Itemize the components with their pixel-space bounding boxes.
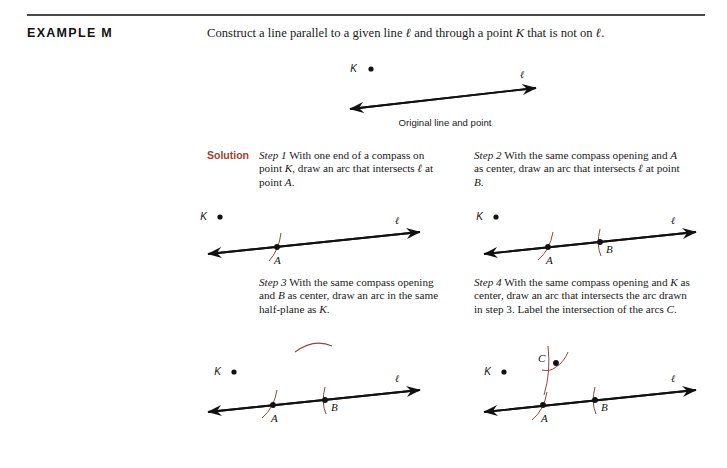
label-a: A bbox=[545, 254, 553, 266]
point-b-dot bbox=[592, 397, 598, 403]
problem-text-3: that is not on bbox=[524, 26, 596, 40]
solution-label: Solution bbox=[207, 149, 249, 161]
step-2-body-1: With the same compass opening and bbox=[502, 149, 671, 161]
step-4-body-3: . bbox=[674, 303, 677, 315]
point-k-dot bbox=[217, 214, 222, 219]
step-2-lead: Step 2 bbox=[474, 149, 502, 161]
label-k: K bbox=[484, 366, 492, 377]
problem-text-2: and through a point bbox=[411, 26, 516, 40]
label-ell: ℓ bbox=[395, 215, 399, 226]
step-3-var-1: B bbox=[278, 289, 285, 301]
textbook-page: EXAMPLE M Construct a line parallel to a… bbox=[0, 0, 727, 468]
step-1-var-2: A bbox=[285, 176, 292, 188]
header-divider bbox=[27, 14, 705, 16]
step-1-body-4: . bbox=[292, 176, 295, 188]
step-3-var-2: K bbox=[319, 303, 326, 315]
figure-step-4-svg: K C A B ℓ bbox=[472, 332, 712, 428]
problem-text-4: . bbox=[601, 26, 604, 40]
label-a: A bbox=[540, 412, 548, 424]
point-k-dot bbox=[231, 369, 236, 374]
figure-step-3: K A B ℓ bbox=[196, 332, 436, 428]
figure-step-2-svg: K A B ℓ bbox=[472, 206, 712, 270]
point-k-dot bbox=[493, 214, 498, 219]
line-ell-left bbox=[208, 390, 420, 412]
label-k: K bbox=[350, 63, 358, 74]
label-ell: ℓ bbox=[395, 373, 399, 384]
step-2-body-3: at point bbox=[643, 162, 680, 174]
step-1-body-2: , draw an arc that intersects bbox=[292, 162, 417, 174]
point-b-dot bbox=[322, 397, 328, 403]
step-4-text: Step 4 With the same compass opening and… bbox=[474, 276, 692, 316]
point-b-dot bbox=[597, 239, 603, 245]
step-4-lead: Step 4 bbox=[474, 276, 502, 288]
step-4-var-2: C bbox=[667, 303, 674, 315]
figure-step-1-svg: K A ℓ bbox=[196, 206, 436, 270]
label-ell: ℓ bbox=[520, 69, 524, 80]
label-b: B bbox=[331, 401, 338, 413]
step-3-text: Step 3 With the same compass opening and… bbox=[259, 276, 449, 316]
line-ell-left bbox=[484, 232, 696, 254]
page-title: EXAMPLE M bbox=[27, 26, 113, 40]
step-3-body-2: as center, draw an arc in the same half-… bbox=[259, 289, 438, 314]
step-2-text: Step 2 With the same compass opening and… bbox=[474, 149, 689, 189]
figure-step-1: K A ℓ bbox=[196, 206, 436, 270]
label-a: A bbox=[270, 412, 278, 424]
step-4-body-1: With the same compass opening and bbox=[502, 276, 671, 288]
arc-from-b-large bbox=[295, 343, 332, 352]
label-ell: ℓ bbox=[671, 373, 675, 384]
line-ell-left bbox=[208, 232, 420, 254]
point-a-dot bbox=[274, 244, 280, 250]
problem-text-1: Construct a line parallel to a given lin… bbox=[207, 26, 406, 40]
step-2-body-4: . bbox=[481, 176, 484, 188]
label-k: K bbox=[476, 211, 484, 222]
figure-caption-original: Original line and point bbox=[330, 117, 560, 128]
point-a-dot bbox=[545, 244, 551, 250]
step-2-var-1: A bbox=[670, 149, 677, 161]
label-k: K bbox=[214, 366, 222, 377]
line-ell-left bbox=[484, 390, 696, 412]
point-k-dot bbox=[368, 66, 373, 71]
label-c: C bbox=[538, 352, 546, 364]
label-ell: ℓ bbox=[671, 215, 675, 226]
figure-step-4: K C A B ℓ bbox=[472, 332, 712, 428]
point-c-dot bbox=[553, 360, 559, 366]
step-3-body-3: . bbox=[327, 303, 330, 315]
problem-statement: Construct a line parallel to a given lin… bbox=[207, 26, 717, 41]
step-3-lead: Step 3 bbox=[259, 276, 287, 288]
label-b: B bbox=[601, 401, 608, 413]
label-k: K bbox=[200, 211, 208, 222]
point-k-dot bbox=[501, 369, 506, 374]
point-k-symbol: K bbox=[516, 26, 524, 40]
label-a: A bbox=[273, 254, 281, 266]
figure-step-3-svg: K A B ℓ bbox=[196, 332, 436, 428]
step-4-var-1: K bbox=[670, 276, 677, 288]
step-2-var-2: B bbox=[474, 176, 481, 188]
point-a-dot bbox=[270, 402, 276, 408]
step-2-body-2: as center, draw an arc that intersects bbox=[474, 162, 638, 174]
line-ell-left bbox=[350, 88, 536, 109]
figure-step-2: K A B ℓ bbox=[472, 206, 712, 270]
label-b: B bbox=[606, 243, 613, 255]
point-a-dot bbox=[540, 402, 546, 408]
step-1-text: Step 1 With one end of a compass on poin… bbox=[259, 149, 444, 189]
step-1-lead: Step 1 bbox=[259, 149, 287, 161]
